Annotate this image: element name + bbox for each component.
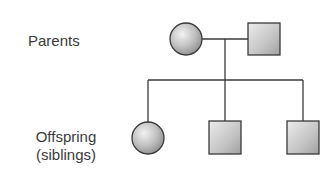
offspring-male-square-2 bbox=[287, 121, 319, 154]
offspring-male-square-1 bbox=[209, 121, 241, 154]
offspring-female-circle bbox=[132, 122, 164, 154]
parent-male-square bbox=[248, 23, 280, 55]
pedigree-chart bbox=[0, 0, 334, 185]
parent-female-circle bbox=[170, 23, 202, 55]
